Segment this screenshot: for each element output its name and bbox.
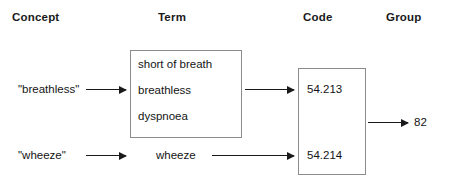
arrow-icon-term-wheeze-to-code — [212, 155, 294, 156]
column-header-concept: Concept — [12, 11, 59, 23]
term-item-wheeze: wheeze — [156, 150, 196, 162]
code-value-54213: 54.213 — [307, 84, 342, 96]
arrow-icon-concept-to-term — [86, 89, 126, 90]
arrow-icon-term-to-code — [245, 89, 294, 90]
column-header-term: Term — [158, 11, 186, 23]
concept-label-breathless: "breathless" — [18, 84, 79, 96]
term-item-breathless: breathless — [138, 85, 191, 97]
term-item-short-of-breath: short of breath — [138, 59, 212, 71]
group-value: 82 — [414, 117, 427, 129]
column-header-code: Code — [303, 11, 333, 23]
column-header-group: Group — [386, 11, 422, 23]
arrow-icon-code-to-group — [368, 122, 408, 123]
diagram-canvas: Concept Term Code Group "breathless" "wh… — [0, 0, 453, 186]
term-item-dyspnoea: dyspnoea — [138, 111, 188, 123]
code-value-54214: 54.214 — [307, 150, 342, 162]
concept-label-wheeze: "wheeze" — [18, 150, 66, 162]
arrow-icon-concept-wheeze-to-term — [86, 155, 126, 156]
